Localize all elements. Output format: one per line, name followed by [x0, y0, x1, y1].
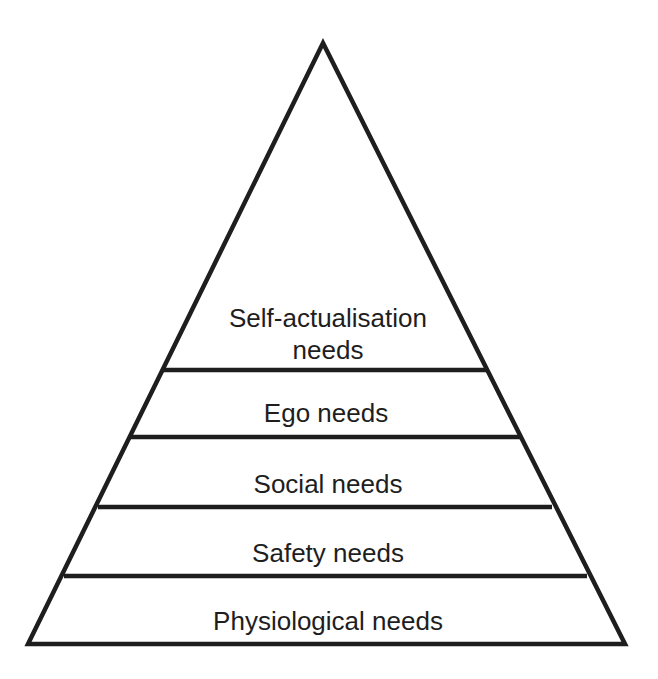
level-self-actualisation-label: Self-actualisation needs [229, 302, 427, 366]
level-self-actualisation-line2: needs [229, 334, 427, 366]
level-self-actualisation-line1: Self-actualisation [229, 302, 427, 334]
level-ego-label: Ego needs [264, 397, 388, 429]
level-physiological-label: Physiological needs [213, 605, 443, 637]
level-social-label: Social needs [254, 468, 403, 500]
level-safety-label: Safety needs [252, 537, 404, 569]
